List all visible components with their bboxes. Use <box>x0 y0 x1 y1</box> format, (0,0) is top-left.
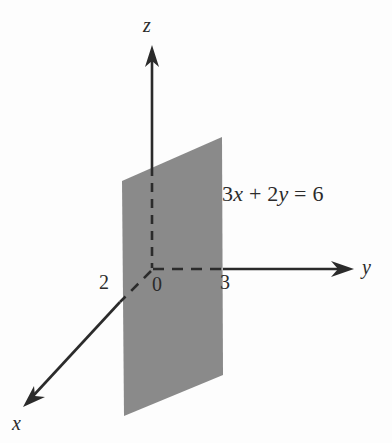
coordinate-system-graphic <box>0 0 392 443</box>
equation-value: 6 <box>312 181 323 206</box>
x-axis-line <box>33 302 120 396</box>
z-axis-label: z <box>143 15 151 35</box>
origin-label: 0 <box>152 274 162 294</box>
x-axis-arrowhead-icon <box>23 386 45 407</box>
y-intercept-label: 3 <box>220 272 230 292</box>
equation-coefficient-y: 2 <box>267 181 278 206</box>
plane-shaded-region <box>122 137 223 416</box>
figure-3d-plane: z y x 0 2 3 3x + 2y = 6 <box>0 0 392 443</box>
plane-equation-label: 3x + 2y = 6 <box>222 183 324 205</box>
equation-coefficient-x: 3 <box>222 181 233 206</box>
equation-var-y: y <box>278 181 288 206</box>
y-axis-label: y <box>362 257 371 277</box>
x-intercept-label: 2 <box>99 272 109 292</box>
equation-plus-sign: + <box>249 181 262 206</box>
equation-equals-sign: = <box>294 181 307 206</box>
x-axis-label: x <box>12 413 21 433</box>
equation-var-x: x <box>233 181 243 206</box>
